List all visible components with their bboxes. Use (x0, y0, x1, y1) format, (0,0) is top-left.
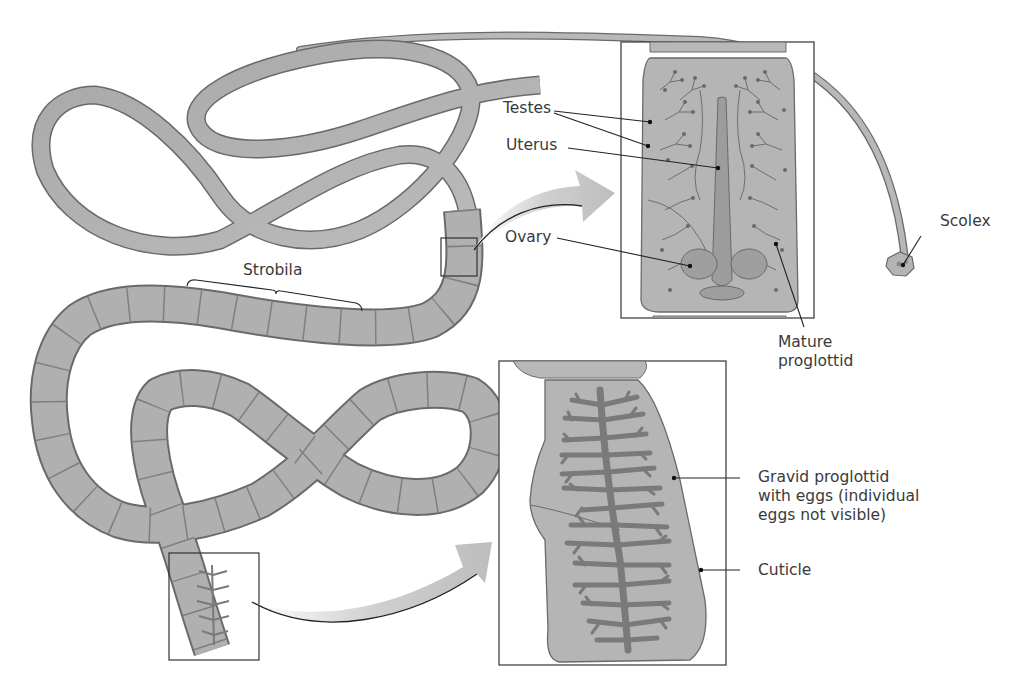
label-mature-line2: proglottid (778, 352, 853, 371)
scolex-shape (886, 252, 914, 276)
label-gravid-line3: eggs not visible) (758, 506, 886, 525)
label-cuticle: Cuticle (758, 561, 811, 580)
label-mature-line1: Mature (778, 333, 832, 352)
label-gravid-line1: Gravid proglottid (758, 468, 889, 487)
label-strobila: Strobila (243, 261, 302, 280)
gravid-proglottid-inset (499, 361, 726, 665)
label-testes: Testes (503, 99, 551, 118)
label-uterus: Uterus (506, 136, 557, 155)
label-gravid-line2: with eggs (individual (758, 487, 919, 506)
mature-proglottid-inset (621, 42, 814, 318)
tapeworm-diagram: Strobila Testes Uterus Ovary Scolex Matu… (0, 0, 1019, 688)
label-ovary: Ovary (505, 228, 551, 247)
cropped-caption-fragment (600, 0, 1019, 4)
label-scolex: Scolex (940, 212, 991, 231)
ovary-left (681, 249, 717, 279)
arrow-to-gravid-inset (252, 542, 492, 622)
ovary-right (731, 249, 767, 279)
